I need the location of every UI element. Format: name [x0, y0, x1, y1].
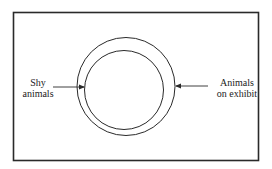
- label-shy-animals-line2: animals: [18, 88, 58, 99]
- inner-circle-shy-animals: [85, 51, 164, 130]
- outer-circle-animals-on-exhibit: [77, 38, 175, 136]
- label-shy-animals-line1: Shy: [18, 77, 58, 88]
- label-shy-animals: Shy animals: [18, 77, 58, 99]
- label-animals-on-exhibit: Animals on exhibit: [212, 77, 262, 99]
- label-animals-on-exhibit-line2: on exhibit: [212, 88, 262, 99]
- label-animals-on-exhibit-line1: Animals: [212, 77, 262, 88]
